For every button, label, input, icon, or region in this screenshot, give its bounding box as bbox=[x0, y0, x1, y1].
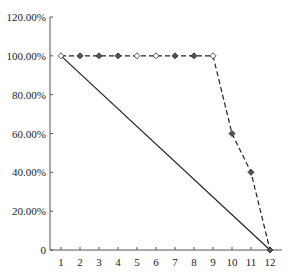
x-tick-label: 11 bbox=[246, 256, 257, 268]
x-tick-label: 12 bbox=[265, 256, 276, 268]
y-axis-ticks: 020.00%40.00%60.00%80.00%100.00%120.00% bbox=[7, 11, 53, 256]
y-tick-label: 60.00% bbox=[12, 128, 46, 140]
x-tick-label: 4 bbox=[115, 256, 121, 268]
x-tick-label: 10 bbox=[227, 256, 239, 268]
y-tick-label: 120.00% bbox=[7, 11, 46, 23]
diamond-marker bbox=[191, 53, 197, 59]
x-tick-label: 5 bbox=[134, 256, 140, 268]
x-tick-label: 2 bbox=[77, 256, 83, 268]
diamond-marker bbox=[153, 53, 159, 59]
x-tick-label: 9 bbox=[210, 256, 216, 268]
x-tick-label: 1 bbox=[58, 256, 64, 268]
y-tick-label: 0 bbox=[41, 244, 47, 256]
solid-series-line bbox=[61, 56, 270, 250]
y-tick-label: 80.00% bbox=[12, 89, 46, 101]
x-tick-label: 6 bbox=[153, 256, 159, 268]
diamond-marker bbox=[77, 53, 83, 59]
diamond-marker bbox=[229, 131, 235, 137]
y-tick-label: 100.00% bbox=[7, 50, 46, 62]
diamond-marker bbox=[248, 169, 254, 175]
series-group bbox=[58, 53, 273, 253]
diamond-marker bbox=[210, 53, 216, 59]
axes bbox=[50, 17, 282, 250]
x-tick-label: 3 bbox=[96, 256, 102, 268]
x-tick-label: 7 bbox=[172, 256, 178, 268]
diamond-marker bbox=[115, 53, 121, 59]
diamond-marker bbox=[96, 53, 102, 59]
x-tick-label: 8 bbox=[191, 256, 197, 268]
y-tick-label: 40.00% bbox=[12, 166, 46, 178]
y-tick-label: 20.00% bbox=[12, 205, 46, 217]
diamond-marker bbox=[172, 53, 178, 59]
line-chart: 020.00%40.00%60.00%80.00%100.00%120.00% … bbox=[0, 0, 291, 279]
diamond-marker bbox=[134, 53, 140, 59]
